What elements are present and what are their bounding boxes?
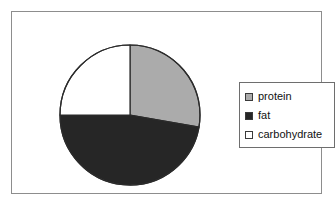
pie-slice-carbohydrate[interactable] [60,45,130,115]
legend-swatch-fat [245,112,253,120]
legend-swatch-carbohydrate [245,131,253,139]
legend-label-carbohydrate: carbohydrate [258,129,322,140]
pie-chart-svg [59,44,201,186]
legend-item-carbohydrate[interactable]: carbohydrate [245,125,331,144]
legend-label-protein: protein [258,91,292,102]
legend-item-protein[interactable]: protein [245,87,331,106]
figure-frame: protein fat carbohydrate [11,11,322,194]
pie-slice-protein[interactable] [130,45,200,127]
pie-chart [59,44,201,186]
screenshot-root: protein fat carbohydrate [0,0,335,208]
pie-slice-group [60,45,200,185]
legend-label-fat: fat [258,110,270,121]
legend-swatch-protein [245,93,253,101]
pie-slice-fat[interactable] [60,115,199,185]
legend-item-fat[interactable]: fat [245,106,331,125]
legend: protein fat carbohydrate [239,82,335,148]
